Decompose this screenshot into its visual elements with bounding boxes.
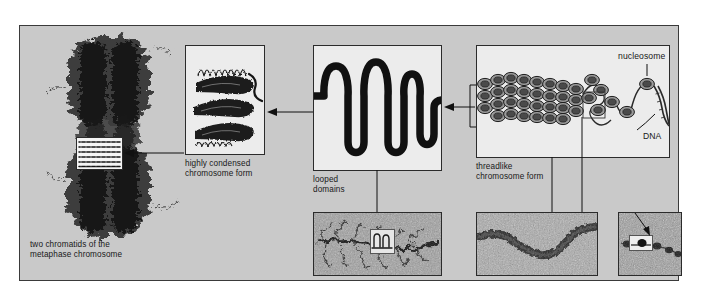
arrow-condensed-to-metaphase <box>123 146 185 160</box>
metaphase-inset-box <box>76 137 123 170</box>
figure-plate: two chromatids of the metaphase chromoso… <box>19 25 679 281</box>
caption-metaphase-line1: two chromatids of the <box>30 240 110 250</box>
caption-metaphase-line2: metaphase chromosome <box>30 250 122 260</box>
micrograph-looped-inset <box>370 229 395 254</box>
panel-highly-condensed-chromosome-form <box>185 45 265 155</box>
nucleosome-label: nucleosome <box>618 51 665 61</box>
figure-root: two chromatids of the metaphase chromoso… <box>0 0 709 305</box>
caption-condensed-line2: chromosome form <box>185 169 252 179</box>
caption-condensed-line1: highly condensed <box>185 159 250 169</box>
micrograph-beads-on-a-string <box>618 212 682 276</box>
arrow-into-beads-inset <box>633 212 663 241</box>
micrograph-30nm-fiber <box>476 212 598 276</box>
micrograph-looped-domains <box>313 212 442 276</box>
panel-looped-domains <box>313 45 442 171</box>
